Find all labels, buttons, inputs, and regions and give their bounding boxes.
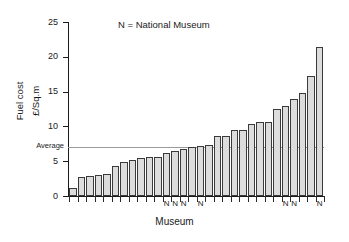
bar	[188, 147, 196, 196]
bar	[239, 130, 247, 196]
national-museum-marker: N	[164, 199, 170, 208]
bar	[214, 136, 222, 196]
bar	[282, 106, 290, 196]
x-tick	[95, 196, 96, 202]
x-tick	[86, 196, 87, 202]
average-label: Average	[22, 142, 64, 150]
y-tick-label-0: 0	[0, 192, 58, 201]
bar	[197, 146, 205, 196]
x-tick	[69, 196, 70, 202]
national-museum-marker: N	[198, 199, 204, 208]
chart-root: N = National Museum Fuel cost £/Sq.m 051…	[0, 0, 349, 242]
national-museum-marker: N	[291, 199, 297, 208]
x-tick	[188, 196, 189, 202]
y-tick-0	[63, 196, 68, 197]
bar	[248, 124, 256, 196]
x-axis-title: Museum	[0, 216, 349, 227]
y-tick-label-20: 20	[0, 52, 58, 61]
bar	[171, 151, 179, 196]
x-tick	[112, 196, 113, 202]
bar	[205, 145, 213, 196]
bar	[112, 166, 120, 196]
y-tick-label-15: 15	[0, 87, 58, 96]
national-museum-marker: N	[181, 199, 187, 208]
bar	[180, 149, 188, 196]
x-tick	[248, 196, 249, 202]
x-tick	[324, 196, 325, 202]
bar	[299, 93, 307, 196]
y-tick-label-10: 10	[0, 122, 58, 131]
bar	[120, 162, 128, 196]
national-museum-marker: N	[283, 199, 289, 208]
x-tick	[214, 196, 215, 202]
x-tick	[239, 196, 240, 202]
y-tick-5	[63, 161, 68, 162]
bar	[137, 158, 145, 196]
bar	[146, 157, 154, 196]
bar	[86, 176, 94, 196]
y-axis-title: Fuel cost £/Sq.m	[8, 46, 38, 156]
y-tick-label-25: 25	[0, 18, 58, 27]
bar	[273, 109, 281, 196]
x-tick	[129, 196, 130, 202]
x-tick	[120, 196, 121, 202]
bar	[154, 157, 162, 196]
y-tick-10	[63, 126, 68, 127]
x-tick	[273, 196, 274, 202]
bar	[163, 153, 171, 197]
x-tick	[137, 196, 138, 202]
x-tick	[307, 196, 308, 202]
x-tick	[154, 196, 155, 202]
bar-series	[69, 22, 324, 196]
x-tick	[256, 196, 257, 202]
y-tick-20	[63, 57, 68, 58]
national-museum-marker: N	[172, 199, 178, 208]
y-tick-15	[63, 92, 68, 93]
x-tick	[146, 196, 147, 202]
y-tick-25	[63, 22, 68, 23]
bar	[290, 99, 298, 196]
bar	[222, 136, 230, 196]
x-tick	[265, 196, 266, 202]
x-tick	[205, 196, 206, 202]
bar	[78, 177, 86, 196]
bar	[69, 188, 77, 196]
bar	[103, 174, 111, 196]
bar	[129, 160, 137, 196]
bar	[256, 122, 264, 196]
bar	[95, 175, 103, 196]
x-tick	[299, 196, 300, 202]
y-tick-label-5: 5	[0, 157, 58, 166]
bar	[265, 122, 273, 196]
national-museum-marker: N	[317, 199, 323, 208]
x-tick	[222, 196, 223, 202]
bar	[231, 130, 239, 196]
bar	[307, 76, 315, 196]
x-tick	[231, 196, 232, 202]
x-tick	[103, 196, 104, 202]
bar	[316, 47, 324, 196]
x-tick	[78, 196, 79, 202]
